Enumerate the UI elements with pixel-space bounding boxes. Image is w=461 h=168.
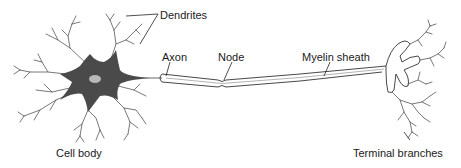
label-cell-body: Cell body [56,147,102,159]
label-node: Node [218,51,244,63]
nucleus [89,75,101,83]
axon [160,41,420,93]
terminal-branches [392,20,446,138]
label-terminal-branches: Terminal branches [353,147,443,159]
cell-body-shape [60,50,150,112]
neuron-diagram: Dendrites Axon Node Myelin sheath Cell b… [0,0,461,168]
label-myelin-sheath: Myelin sheath [302,51,370,63]
neuron-illustration [0,0,461,168]
label-dendrites: Dendrites [160,9,207,21]
label-axon: Axon [162,51,187,63]
